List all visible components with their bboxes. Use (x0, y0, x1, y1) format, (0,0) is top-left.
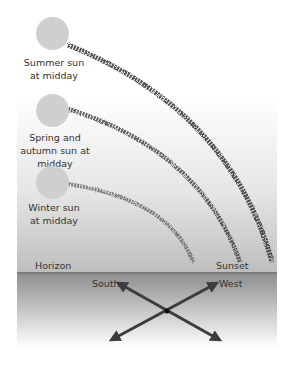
west-label: West (219, 278, 242, 289)
spring-autumn-sun-label: Spring and autumn sun at midday (10, 131, 100, 170)
spring-autumn-sun (36, 94, 69, 127)
summer-sun (36, 17, 69, 50)
winter-sun-label: Winter sun at midday (14, 201, 94, 227)
horizon-label: Horizon (35, 260, 71, 271)
south-label: South (92, 278, 120, 289)
east-west-arrow (113, 284, 215, 339)
winter-sun (36, 166, 69, 199)
sunset-label: Sunset (216, 260, 249, 271)
summer-sun-label: Summer sun at midday (14, 56, 94, 82)
